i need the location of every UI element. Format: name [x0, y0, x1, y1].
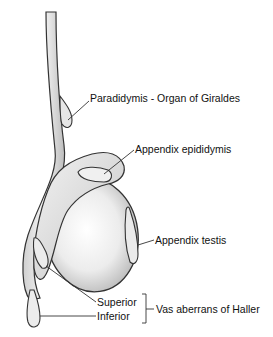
anatomy-illustration [0, 0, 273, 337]
paradidymis [60, 96, 72, 127]
label-appendix-epididymis: Appendix epididymis [135, 144, 231, 155]
label-superior: Superior [97, 297, 137, 308]
label-appendix-testis: Appendix testis [155, 235, 226, 246]
label-vas-aberrans: Vas aberrans of Haller [156, 304, 260, 315]
label-paradidymis: Paradidymis - Organ of Giraldes [90, 93, 240, 104]
label-inferior: Inferior [97, 311, 130, 322]
